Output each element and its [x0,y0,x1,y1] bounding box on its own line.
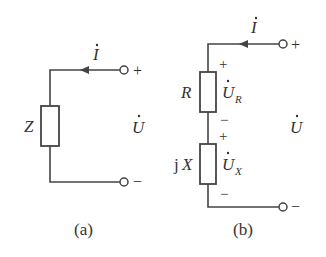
resistor-plus-label: + [219,56,227,72]
resistor-label-r: R [180,83,192,102]
reactance-label-j: j [173,155,179,174]
impedance-label-z: Z [24,117,34,136]
reactance-voltage-label: U [222,155,236,174]
resistor-voltage-subscript: R [234,93,242,105]
current-arrow-a-icon [80,66,89,74]
caption-a: (a) [74,220,93,239]
minus-label-b: − [291,198,300,215]
phasor-dot-u-a-icon [138,115,140,117]
terminal-minus-a-icon [120,178,128,186]
terminal-plus-a-icon [120,66,128,74]
circuit-b: I + − + R U R − + j X U X − U (b) [173,17,304,239]
bottom-wire-a [50,146,120,182]
plus-label-b: + [291,36,300,53]
voltage-label-b: U [290,118,304,137]
plus-label-a: + [133,62,142,79]
resistor-minus-label: − [220,112,228,128]
circuit-a: I + − Z U (a) [24,44,146,239]
phasor-dot-i-b-icon [255,17,257,19]
current-label-a: I [92,45,100,64]
circuit-diagram: I + − Z U (a) I + − + R U R − + j X U X [0,0,326,257]
phasor-dot-i-a-icon [96,44,98,46]
current-arrow-b-icon [239,40,248,48]
bottom-wire-b [208,184,279,207]
resistor-r-box [200,72,216,112]
top-wire-a [50,70,120,106]
phasor-dot-ur-icon [227,80,229,82]
voltage-label-a: U [132,118,146,137]
terminal-minus-b-icon [279,203,287,211]
resistor-voltage-label: U [222,83,236,102]
minus-label-a: − [133,173,142,190]
caption-b: (b) [233,220,253,239]
impedance-z-box [41,106,59,146]
phasor-dot-ux-icon [227,152,229,154]
current-label-b: I [250,18,258,37]
reactance-minus-label: − [220,186,228,202]
reactance-label-x: X [181,155,193,174]
phasor-dot-u-b-icon [296,115,298,117]
reactance-plus-label: + [219,128,227,144]
terminal-plus-b-icon [279,40,287,48]
reactance-voltage-subscript: X [234,165,243,177]
reactance-jx-box [200,144,216,184]
